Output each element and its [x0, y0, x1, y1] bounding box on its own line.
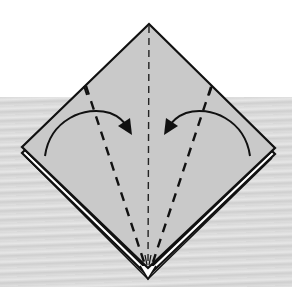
origami-diagram — [0, 0, 292, 287]
